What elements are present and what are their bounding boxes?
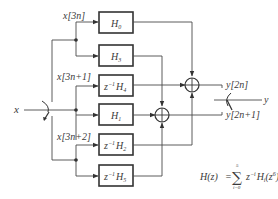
branch-x3n2: x[3n+2] [52, 131, 98, 176]
input-line: x [13, 103, 76, 115]
svg-text:5: 5 [236, 163, 239, 168]
svg-text:∑: ∑ [232, 169, 242, 185]
output-wiring [133, 22, 192, 176]
branch-label-x3n1: x[3n+1] [56, 71, 91, 82]
output-y2n1: y[2n+1] [169, 109, 260, 120]
svg-text:i=0: i=0 [233, 185, 241, 190]
output-label-y2n1: y[2n+1] [225, 109, 260, 120]
block-h1: H1 [99, 104, 133, 125]
input-label: x [13, 103, 19, 115]
output-commutator-icon: y [214, 93, 269, 110]
output-y2n: y[2n] [199, 79, 248, 90]
branch-x3n: x[3n] [52, 10, 98, 56]
block-z1h5: z−1H5 [99, 165, 133, 186]
input-commutator-icon [42, 40, 52, 160]
branch-label-x3n2: x[3n+2] [56, 131, 91, 142]
block-z1h4: z−1H4 [99, 75, 133, 96]
svg-text:=: = [225, 171, 232, 182]
svg-text:z−iHi(z6): z−iHi(z6) [245, 171, 278, 183]
adder-1 [185, 78, 199, 92]
output-label-y: y [263, 94, 269, 105]
block-h3: H3 [99, 45, 133, 66]
transfer-function-formula: H(z) = ∑ 5 i=0 z−iHi(z6) [199, 163, 278, 190]
block-z1h2: z−1H2 [99, 134, 133, 155]
output-label-y2n: y[2n] [225, 79, 248, 90]
block-h0: H0 [99, 12, 133, 33]
branch-label-x3n: x[3n] [62, 10, 85, 21]
svg-text:H(z): H(z) [199, 171, 218, 183]
adder-2 [155, 108, 169, 122]
polyphase-diagram: x x[3n] x[3n+1] x[3n+2] H0 [0, 0, 278, 199]
branch-x3n1: x[3n+1] [56, 71, 98, 140]
